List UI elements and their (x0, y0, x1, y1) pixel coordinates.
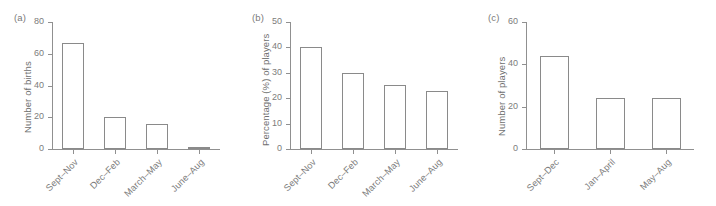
bar (540, 56, 569, 149)
bar (300, 47, 322, 149)
y-axis-tick (48, 149, 52, 150)
x-axis-line (290, 149, 458, 150)
panel-b: (b) Percentage (%) of players 0102030405… (238, 0, 478, 206)
x-axis-category-label: May–Aug (624, 157, 673, 206)
y-axis-line (290, 22, 291, 149)
y-axis-tick (48, 22, 52, 23)
panel-b-plot-area: 01020304050Sept–NovDec–FebMarch–MayJune–… (290, 22, 458, 149)
y-axis-tick (286, 149, 290, 150)
x-axis-tick (73, 150, 74, 154)
y-axis-tick (522, 107, 526, 108)
bar (104, 117, 126, 149)
y-axis-tick (522, 149, 526, 150)
bar (146, 124, 168, 149)
y-axis-tick-label: 0 (12, 143, 44, 153)
y-axis-tick-label: 40 (250, 41, 282, 51)
x-axis-category-label: June–Aug (395, 157, 444, 206)
bar (342, 73, 364, 149)
y-axis-tick-label: 20 (486, 101, 518, 111)
panel-a: (a) Number of births 020406080Sept–NovDe… (0, 0, 240, 206)
x-axis-tick (353, 150, 354, 154)
bar (596, 98, 625, 149)
y-axis-tick-label: 30 (250, 67, 282, 77)
x-axis-tick (199, 150, 200, 154)
x-axis-tick (115, 150, 116, 154)
panel-a-plot-area: 020406080Sept–NovDec–FebMarch–MayJune–Au… (52, 22, 220, 149)
panel-c: (c) Number of players 0204060Sept–DecJan… (474, 0, 716, 206)
panel-c-y-axis-label: Number of players (496, 57, 507, 136)
x-axis-category-label: Jan–April (568, 157, 617, 206)
x-axis-line (52, 149, 220, 150)
y-axis-tick (48, 117, 52, 118)
y-axis-tick-label: 60 (12, 48, 44, 58)
y-axis-tick-label: 20 (12, 111, 44, 121)
y-axis-tick (522, 64, 526, 65)
x-axis-tick (437, 150, 438, 154)
x-axis-tick (157, 150, 158, 154)
x-axis-category-label: June–Aug (157, 157, 206, 206)
y-axis-tick-label: 60 (486, 16, 518, 26)
bar (426, 91, 448, 149)
y-axis-tick (522, 22, 526, 23)
y-axis-tick-label: 40 (486, 58, 518, 68)
y-axis-tick (48, 54, 52, 55)
y-axis-tick-label: 50 (250, 16, 282, 26)
y-axis-tick-label: 20 (250, 92, 282, 102)
x-axis-tick (311, 150, 312, 154)
figure-three-panel-bar-charts: (a) Number of births 020406080Sept–NovDe… (0, 0, 716, 206)
bar (62, 43, 84, 149)
panel-c-plot-area: 0204060Sept–DecJan–AprilMay–Aug (526, 22, 694, 149)
bar (188, 147, 210, 149)
bar (652, 98, 681, 149)
y-axis-tick (286, 124, 290, 125)
y-axis-line (526, 22, 527, 149)
y-axis-tick-label: 10 (250, 118, 282, 128)
y-axis-tick (48, 86, 52, 87)
y-axis-tick (286, 47, 290, 48)
y-axis-tick-label: 0 (250, 143, 282, 153)
x-axis-tick (554, 150, 555, 154)
x-axis-category-label: Sept–Dec (512, 157, 561, 206)
x-axis-tick (610, 150, 611, 154)
y-axis-tick-label: 80 (12, 16, 44, 26)
y-axis-tick (286, 73, 290, 74)
y-axis-line (52, 22, 53, 149)
panel-a-y-axis-label: Number of births (22, 61, 33, 133)
x-axis-tick (395, 150, 396, 154)
y-axis-tick-label: 40 (12, 80, 44, 90)
y-axis-tick-label: 0 (486, 143, 518, 153)
bar (384, 85, 406, 149)
y-axis-tick (286, 98, 290, 99)
y-axis-tick (286, 22, 290, 23)
x-axis-tick (666, 150, 667, 154)
